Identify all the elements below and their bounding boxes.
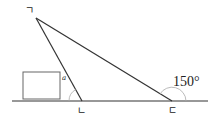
- vertex-label-top: ㄱ: [25, 5, 34, 16]
- side-top-middle: [36, 18, 82, 101]
- angle-label-right: 150°: [173, 74, 200, 89]
- angle-label-middle: a: [62, 74, 66, 82]
- angle-arc-middle: [69, 90, 76, 101]
- vertex-label-right: ㄷ: [168, 105, 177, 116]
- angle-arc-right: [160, 87, 186, 101]
- triangle-diagram: ㄱ ㄴ ㄷ a 150°: [0, 0, 220, 119]
- answer-box: [23, 72, 60, 99]
- side-top-right: [36, 18, 172, 101]
- vertex-label-middle: ㄴ: [77, 105, 86, 116]
